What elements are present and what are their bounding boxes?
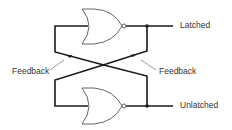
top-nor-gate	[82, 9, 126, 44]
latched-junction-dot	[145, 24, 149, 28]
bottom-inversion-bubble	[122, 104, 126, 108]
feedback-left-label: Feedback	[12, 67, 49, 76]
unlatched-label: Unlatched	[180, 101, 218, 110]
latched-label: Latched	[180, 21, 210, 30]
bottom-nor-gate	[82, 88, 126, 124]
top-inversion-bubble	[122, 24, 126, 28]
feedback-pointer-right	[141, 60, 156, 70]
unlatched-junction-dot	[145, 104, 149, 108]
feedback-right-label: Feedback	[159, 67, 196, 76]
feedback-pointer-left	[50, 60, 64, 70]
